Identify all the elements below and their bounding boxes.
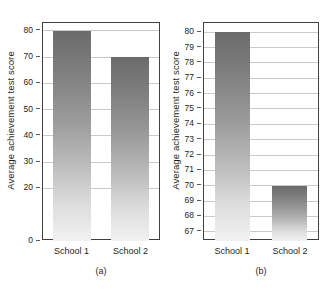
y-tick-label: 72	[185, 150, 194, 159]
y-tick-label: 74	[185, 119, 194, 128]
y-tick-label: 50	[24, 104, 33, 113]
panel-a-y-tick-labels: 020304050607080	[18, 22, 40, 240]
two-panel-bar-figure: Average achievement test score 020304050…	[0, 0, 329, 290]
category-label: School 2	[113, 246, 148, 256]
y-tick-mark	[197, 107, 201, 108]
y-tick-mark	[36, 29, 40, 30]
panel-a-category-labels: School 1School 2	[42, 246, 160, 262]
y-tick-mark	[197, 61, 201, 62]
y-tick-mark	[36, 108, 40, 109]
y-tick-label: 0	[28, 236, 33, 245]
y-tick-mark	[197, 154, 201, 155]
y-tick-label: 76	[185, 88, 194, 97]
y-tick-mark	[197, 92, 201, 93]
y-tick-mark	[197, 169, 201, 170]
y-tick-label: 30	[24, 157, 33, 166]
panel-a-y-axis-title: Average achievement test score	[0, 0, 20, 240]
panel-b: Average achievement test score 676869707…	[165, 0, 329, 290]
y-tick-mark	[197, 184, 201, 185]
y-tick-mark	[197, 31, 201, 32]
category-label: School 2	[272, 246, 307, 256]
y-tick-label: 79	[185, 42, 194, 51]
panel-b-caption: (b)	[256, 266, 267, 276]
bar	[215, 32, 249, 241]
y-tick-mark	[197, 138, 201, 139]
y-tick-mark	[197, 230, 201, 231]
category-label: School 1	[214, 246, 249, 256]
y-tick-mark	[36, 161, 40, 162]
y-tick-label: 67	[185, 227, 194, 236]
y-tick-label: 73	[185, 134, 194, 143]
y-tick-mark	[36, 240, 40, 241]
y-tick-label: 60	[24, 78, 33, 87]
panel-a-y-axis-title-text: Average achievement test score	[5, 51, 16, 190]
y-tick-label: 69	[185, 196, 194, 205]
y-tick-label: 75	[185, 104, 194, 113]
panel-b-category-labels: School 1School 2	[203, 246, 319, 262]
panel-a-caption: (a)	[96, 266, 107, 276]
y-tick-mark	[197, 200, 201, 201]
y-tick-label: 77	[185, 73, 194, 82]
y-tick-mark	[36, 187, 40, 188]
y-tick-label: 80	[185, 27, 194, 36]
panel-a: Average achievement test score 020304050…	[0, 0, 165, 290]
y-tick-label: 78	[185, 58, 194, 67]
y-tick-label: 70	[185, 180, 194, 189]
bar	[111, 57, 148, 241]
y-tick-label: 40	[24, 131, 33, 140]
y-tick-mark	[36, 134, 40, 135]
y-tick-mark	[197, 123, 201, 124]
category-label: School 1	[54, 246, 89, 256]
bar	[272, 186, 306, 241]
y-tick-label: 20	[24, 183, 33, 192]
panel-b-plot-area	[203, 22, 319, 240]
y-tick-mark	[36, 56, 40, 57]
y-tick-label: 68	[185, 211, 194, 220]
panel-a-plot-area	[42, 22, 160, 240]
y-tick-mark	[197, 215, 201, 216]
y-tick-mark	[197, 46, 201, 47]
panel-b-y-tick-labels: 6768697071727374757677787980	[179, 22, 201, 240]
bar	[53, 31, 90, 241]
y-tick-label: 80	[24, 26, 33, 35]
y-tick-label: 71	[185, 165, 194, 174]
y-tick-mark	[197, 77, 201, 78]
y-tick-mark	[36, 82, 40, 83]
y-tick-label: 70	[24, 52, 33, 61]
